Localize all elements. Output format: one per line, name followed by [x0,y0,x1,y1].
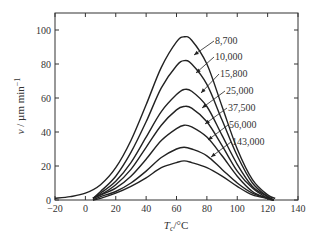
x-tick-label: 80 [202,203,212,214]
x-tick-label: 120 [260,203,275,214]
y-tick-labels: 020406080100 [36,25,51,206]
x-tick-label: 20 [111,203,121,214]
x-tick-label: 60 [172,203,182,214]
x-tick-label: 100 [230,203,245,214]
y-tick-label: 20 [41,161,51,172]
series-label: 25,000 [226,85,254,96]
series-label: 8,700 [215,35,238,46]
series-label: 37,500 [228,102,256,113]
y-tick-label: 40 [41,127,51,138]
y-tick-label: 100 [36,25,51,36]
arrow-icon [211,153,216,157]
x-tick-label: 40 [141,203,151,214]
y-axis-label: v / µm min−1 [13,78,26,135]
x-tick-labels: −20020406080100120140 [47,203,305,214]
crystal-growth-rate-chart: −20020406080100120140 020406080100 8,700… [0,0,318,240]
x-axis-label: Tc/°C [164,219,188,233]
y-tick-label: 80 [41,59,51,70]
series-label: 143,000 [232,136,265,147]
series-label: 15,800 [220,68,248,79]
series-label: 10,000 [215,51,243,62]
arrow-icon [194,51,199,55]
y-tick-label: 0 [46,195,51,206]
x-tick-label: 140 [291,203,306,214]
y-tick-label: 60 [41,93,51,104]
x-tick-label: 0 [83,203,88,214]
series-label: 56,000 [229,119,257,130]
arrow-icon [208,136,213,140]
